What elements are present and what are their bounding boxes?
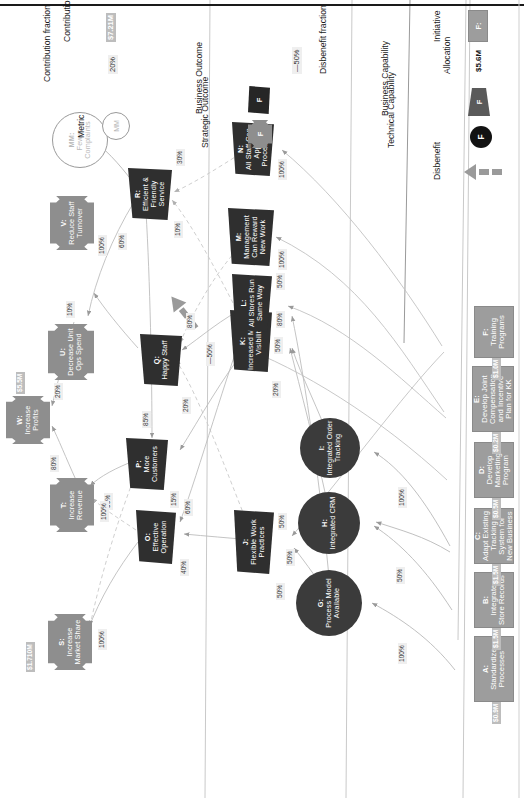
fraction-m-in: 100% [278,249,287,270]
legend-allocation-value: $5.6M [474,48,484,74]
fraction-k-left: 20% [272,381,281,398]
strategic-outcome-V[interactable]: V: Reduce Staff Turnover [50,196,94,250]
initiative-F-name: Training Programs [489,315,506,349]
fraction-j-left: 50% [276,583,285,600]
fraction-t-in: 100% [100,501,109,522]
strategic-V-name: Reduce Staff Turnover [67,201,84,244]
fraction-a-to-g: 100% [398,643,407,664]
capability-I[interactable]: I: Integrated Order Tracking [300,418,360,478]
capability-H[interactable]: H: Integrated CRM [298,492,360,554]
legend-metric-swatch: MM [102,112,130,140]
legend-business-outcome-label: Business Outcome [194,42,204,114]
fraction-w-from-u: 20% [54,383,63,400]
initiative-F[interactable]: F: Training Programs [474,306,514,358]
strategic-W-contribution: $5.5M [16,372,25,394]
outcome-O-name: Effective Operation [151,521,168,554]
outcome-Q[interactable]: Q: Happy Staff [140,334,182,386]
initiative-D-allocation: $0.5M [492,498,501,520]
legend-contribution-fraction-value: 20% [108,55,118,74]
legend-initiative-swatch: F: [468,10,488,42]
outcome-J-name: Flexible Work Practices [249,519,266,564]
initiative-A-name: Standardize Processes [489,648,506,690]
legend-contribution-fraction-label: Contribution fraction [42,5,52,82]
outcome-P-name: More Customers [142,446,159,482]
fraction-o-left: 40% [180,559,189,576]
outcome-M-name: Management Can Reward New Work [242,215,267,259]
fraction-w-from-t: 80% [50,455,59,472]
fraction-o-right: 60% [184,499,193,516]
strategic-T-name: Increase Revenue [67,490,84,520]
strategic-S-name: Increase Market Share [65,620,82,665]
fraction-r-right: 30% [176,149,185,166]
outcome-R[interactable]: R: Efficient & Friendly Service [128,168,172,220]
legend-disbenefit-label: Disbenefit [432,142,442,180]
fraction-l-left: 50% [274,337,283,354]
fraction-j-right: 50% [278,513,287,530]
legend-metric-letter: MM [113,120,120,132]
fraction-p-right: 85% [142,411,151,428]
fraction-h-out: 50% [286,549,295,566]
fraction-u-in: 10% [66,301,75,318]
fraction-q-left: 20% [182,397,191,414]
legend-initiative-label: Initiative [432,10,442,42]
capability-H-name: Integrated CRM [328,497,337,550]
fraction-b-to-h: 50% [396,567,405,584]
outcome-R-name: Efficient & Friendly Service [141,177,166,211]
fraction-r-left: 10% [174,221,183,238]
outcome-M[interactable]: M: Management Can Reward New Work [228,208,274,266]
legend-contribution-value: $7.21M [106,13,116,42]
legend-business-outcome-swatch: F [248,86,270,114]
outcome-O[interactable]: O: Effective Operation [136,510,176,564]
outcome-Q-name: Happy Staff [160,340,169,379]
diagram-viewport: A: Standardize Processes $0.9M B: Integr… [0,0,524,798]
legend-tech-cap-letter: F [476,134,486,139]
initiative-C-allocation: $1.5M [492,564,501,586]
outcome-P[interactable]: P: More Customers [126,438,168,490]
fraction-c-to-i: 100% [398,487,407,508]
fraction-n-in: 100% [278,159,287,180]
strategic-U-name: Decrease Unit Ops Spend [66,328,83,376]
legend-metric-label: Metric [76,115,86,138]
capability-G-name: Process Model Available [324,578,341,628]
strategic-outcome-S[interactable]: S: Increase Market Share [48,614,92,670]
initiative-E-allocation: $0.2M [492,432,501,454]
outcome-L-name: All Stores Run Same Way [247,279,264,327]
capability-G[interactable]: G: Process Model Available [296,570,362,636]
legend-disbenefit-fraction-label: Disbenefit fraction [318,5,328,74]
initiative-D-name: Develop Marketing Program [485,453,510,487]
legend-allocation-label: Allocation [442,37,452,74]
rotated-page: A: Standardize Processes $0.9M B: Integr… [0,0,524,798]
legend-business-capability-label: Business Capability [380,41,390,116]
initiative-B-allocation: $1.5M [492,628,501,650]
strategic-S-contribution: $1.710M [26,642,35,672]
fraction-q-disbenefit: —50% [206,342,215,366]
legend-initiative-swatch-label: F: [474,22,483,29]
capability-I-name: Integrated Order Tracking [325,420,342,475]
legend-contribution-label: Contribution [62,0,72,42]
legend-strategic-out-letter: F [256,132,265,137]
strategic-outcome-T[interactable]: T: Increase Revenue [50,478,94,532]
strategic-outcome-U[interactable]: U: Decrease Unit Ops Spend [48,324,94,380]
legend-disbenefit-fraction-value: —50% [292,47,302,74]
legend-disbenefit-arrow-icon [462,164,506,180]
initiative-E-name: Develop Joint Compensation and Incentive… [480,374,514,424]
initiative-A-allocation: $0.9M [492,702,501,724]
fraction-s-in: 100% [98,629,107,650]
diagram-canvas: A: Standardize Processes $0.9M B: Integr… [0,0,524,798]
legend-technical-capability-swatch: F [470,126,492,148]
fraction-v-in: 100% [98,235,107,256]
legend-business-out-letter: F [255,98,264,103]
fraction-p-left: 15% [170,491,179,508]
fraction-k-right: 80% [276,311,285,328]
fraction-q-right: 80% [186,313,195,330]
strategic-outcome-W[interactable]: W: Increase Profits [6,396,50,444]
outcome-J[interactable]: J: Flexible Work Practices [234,510,274,574]
legend-business-cap-letter: F [475,100,484,105]
fraction-r-up: 60% [118,233,127,250]
outcome-L[interactable]: L: All Stores Run Same Way [232,274,272,332]
initiative-F-allocation: $1.0M [492,358,501,380]
strategic-W-name: Increase Profits [23,406,40,435]
fraction-l-right: 50% [276,273,285,290]
